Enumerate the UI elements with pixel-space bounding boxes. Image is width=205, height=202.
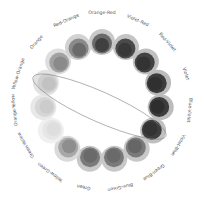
hue-label: Yellow-Orange	[10, 57, 25, 91]
shade-circle	[137, 57, 151, 71]
hue-label: Blue-Violet	[186, 98, 194, 123]
shade-circle	[128, 139, 142, 153]
shade-circle	[148, 77, 162, 91]
color-wheel-diagram: Orange-RedViolet-RedRed-VioletVioletBlue…	[0, 0, 205, 202]
hue-swatch	[77, 146, 103, 172]
shade-circle	[72, 43, 86, 57]
shade-circle	[143, 122, 157, 136]
hue-swatch	[148, 94, 174, 120]
hue-swatch	[145, 70, 171, 96]
hue-swatch	[124, 136, 150, 162]
shade-circle	[42, 77, 56, 91]
hue-label: Orange-Red	[88, 10, 115, 15]
shade-circle	[95, 38, 109, 52]
shade-circle	[62, 139, 76, 153]
hue-label: Green-Blue	[142, 163, 166, 182]
hue-label: Green	[76, 183, 91, 191]
hue-label: Yellow-Green	[37, 162, 65, 184]
hue-label: Violet-Blue	[170, 133, 187, 157]
hue-swatches	[30, 29, 173, 172]
hue-label: Green-Yellow	[16, 131, 35, 159]
shade-circle	[39, 100, 53, 114]
shade-circle	[53, 57, 67, 71]
hue-swatch	[89, 29, 115, 55]
hue-label: Orange	[29, 34, 44, 50]
shade-circle	[107, 149, 121, 163]
shade-circle	[83, 149, 97, 163]
hue-swatch	[65, 34, 91, 60]
hue-swatch	[101, 146, 127, 172]
hue-label: Orange-Yellow	[10, 94, 18, 127]
hue-swatch	[38, 118, 64, 144]
hue-label: Blue-Green	[107, 182, 133, 192]
shade-circle	[47, 122, 61, 136]
shade-circle	[151, 100, 165, 114]
hue-label: Red-Violet	[158, 32, 177, 53]
hue-label: Violet	[182, 67, 191, 81]
hue-label: Red-Orange	[53, 12, 80, 28]
shade-circle	[118, 43, 132, 57]
hue-label: Violet-Red	[126, 13, 150, 27]
